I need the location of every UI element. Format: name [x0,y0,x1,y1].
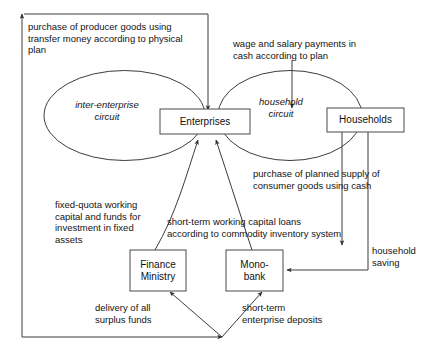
node-label-households: Households [327,108,404,132]
edge-label-short-term-loans: short-term working capital loans accordi… [167,216,341,239]
edge-label-enterprise-deposits: short-term enterprise deposits [242,302,322,325]
edge-label-fixed-quota: fixed-quota working capital and funds fo… [55,199,141,245]
node-label-enterprises: Enterprises [160,109,250,134]
node-label-monobank: Mono- bank [226,250,283,291]
edge-producer-goods-outer [22,14,222,337]
edge-label-wage-salary: wage and salary payments in cash accordi… [233,38,356,61]
edge-label-consumer-goods: purchase of planned supply of consumer g… [253,168,380,191]
circuit-label-inter-enterprise: inter-enterprise circuit [52,99,162,122]
edge-label-surplus-funds: delivery of all surplus funds [95,302,152,325]
edge-surplus-funds-to-finance-ministry [170,292,222,337]
edge-label-producer-goods: purchase of producer goods using transfe… [28,21,183,56]
node-label-finance-ministry: Finance Ministry [130,250,186,291]
diagram-root: Enterprises Households Finance Ministry … [0,0,431,352]
edge-household-saving [287,132,368,270]
edge-label-household-saving: household saving [372,245,416,268]
circuit-label-household: household circuit [238,96,324,119]
